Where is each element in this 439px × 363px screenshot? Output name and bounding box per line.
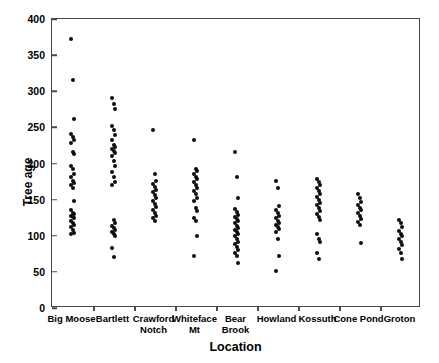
x-tick-mark bbox=[339, 306, 341, 311]
data-point bbox=[110, 96, 114, 100]
data-point bbox=[113, 164, 117, 168]
plot-area: 050100150200250300350400 bbox=[51, 18, 420, 307]
data-point bbox=[112, 102, 116, 106]
data-point bbox=[69, 141, 73, 145]
y-tick-mark bbox=[52, 163, 57, 165]
y-tick-mark bbox=[52, 235, 57, 237]
y-tick-mark bbox=[52, 307, 57, 309]
y-tick-label: 350 bbox=[27, 49, 52, 61]
y-tick-mark bbox=[52, 199, 57, 201]
x-tick-label-line: Crawford bbox=[133, 313, 175, 324]
data-point bbox=[110, 170, 114, 174]
x-tick-label-line: Notch bbox=[133, 324, 175, 335]
x-tick-label-line: Whiteface bbox=[172, 313, 217, 324]
data-point bbox=[113, 107, 117, 111]
x-tick-label: BearBrook bbox=[222, 313, 249, 335]
x-tick-label: Cone Pond bbox=[333, 313, 383, 324]
data-point bbox=[233, 150, 237, 154]
data-point bbox=[192, 199, 196, 203]
data-point bbox=[317, 257, 321, 261]
data-point bbox=[112, 159, 116, 163]
data-point bbox=[315, 232, 319, 236]
y-tick-mark bbox=[52, 271, 57, 273]
x-tick-label-line: Bear bbox=[222, 313, 249, 324]
x-tick-mark bbox=[257, 306, 259, 311]
x-tick-label-line: Kossuth bbox=[299, 313, 337, 324]
data-point bbox=[195, 209, 199, 213]
data-point bbox=[276, 186, 280, 190]
data-point bbox=[113, 234, 117, 238]
data-point bbox=[153, 219, 157, 223]
data-point bbox=[236, 196, 240, 200]
data-point bbox=[235, 254, 239, 258]
x-tick-mark bbox=[134, 306, 136, 311]
scatter-plot-figure: Tree age 050100150200250300350400 Big Mo… bbox=[0, 0, 439, 363]
data-point bbox=[195, 234, 199, 238]
x-tick-label-line: Cone Pond bbox=[333, 313, 383, 324]
x-tick-label-line: Groton bbox=[384, 313, 416, 324]
x-tick-label-line: Big Moose bbox=[47, 313, 95, 324]
data-point bbox=[112, 175, 116, 179]
data-point bbox=[112, 255, 116, 259]
y-tick-mark bbox=[52, 18, 57, 20]
x-tick-label-line: Mt bbox=[172, 324, 217, 335]
data-point bbox=[400, 257, 404, 261]
x-tick-label: Big Moose bbox=[47, 313, 95, 324]
x-tick-label: WhitefaceMt bbox=[172, 313, 217, 335]
y-tick-label: 300 bbox=[27, 85, 52, 97]
y-tick-label: 150 bbox=[27, 194, 52, 206]
data-point bbox=[194, 219, 198, 223]
data-point bbox=[110, 154, 114, 158]
data-point bbox=[110, 138, 114, 142]
y-tick-label: 200 bbox=[27, 158, 52, 170]
data-point bbox=[236, 261, 240, 265]
x-tick-label: Howland bbox=[257, 313, 297, 324]
data-point bbox=[72, 152, 76, 156]
x-tick-label: Kossuth bbox=[299, 313, 337, 324]
x-tick-mark bbox=[175, 306, 177, 311]
y-tick-mark bbox=[52, 54, 57, 56]
data-point bbox=[69, 232, 73, 236]
x-tick-label: CrawfordNotch bbox=[133, 313, 175, 335]
x-tick-mark bbox=[298, 306, 300, 311]
data-point bbox=[318, 218, 322, 222]
data-point bbox=[113, 133, 117, 137]
data-point bbox=[192, 254, 196, 258]
data-point bbox=[72, 199, 76, 203]
x-tick-label: Bartlett bbox=[96, 313, 129, 324]
data-point bbox=[276, 237, 280, 241]
data-point bbox=[274, 230, 278, 234]
y-tick-mark bbox=[52, 91, 57, 93]
y-tick-label: 100 bbox=[27, 230, 52, 242]
data-point bbox=[277, 254, 281, 258]
data-point bbox=[359, 241, 363, 245]
x-tick-mark bbox=[380, 306, 382, 311]
data-point bbox=[318, 240, 322, 244]
x-tick-mark bbox=[93, 306, 95, 311]
data-point bbox=[274, 269, 278, 273]
data-point bbox=[71, 78, 75, 82]
data-point bbox=[235, 175, 239, 179]
data-point bbox=[315, 251, 319, 255]
x-tick-label-line: Bartlett bbox=[96, 313, 129, 324]
x-tick-label-line: Howland bbox=[257, 313, 297, 324]
y-tick-label: 400 bbox=[27, 13, 52, 25]
data-point bbox=[151, 128, 155, 132]
data-point bbox=[399, 251, 403, 255]
data-point bbox=[153, 172, 157, 176]
data-point bbox=[274, 179, 278, 183]
x-tick-label-line: Brook bbox=[222, 324, 249, 335]
y-tick-label: 50 bbox=[33, 266, 52, 278]
data-point bbox=[110, 246, 114, 250]
data-point bbox=[71, 186, 75, 190]
x-tick-label: Groton bbox=[384, 313, 416, 324]
data-point bbox=[358, 223, 362, 227]
x-tick-mark bbox=[216, 306, 218, 311]
y-tick-mark bbox=[52, 127, 57, 129]
x-axis-title: Location bbox=[51, 340, 420, 354]
y-tick-label: 250 bbox=[27, 121, 52, 133]
data-point bbox=[69, 37, 73, 41]
data-point bbox=[192, 138, 196, 142]
data-point bbox=[72, 117, 76, 121]
data-point bbox=[110, 183, 114, 187]
